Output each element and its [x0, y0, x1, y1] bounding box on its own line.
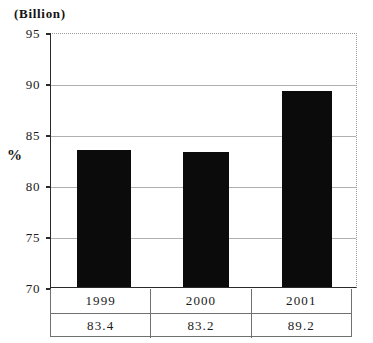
chart-figure: (Billion) % 959085807570 199920002001 83… — [0, 0, 373, 343]
table-row-values: 83.483.289.2 — [51, 313, 351, 338]
table-cell-value: 83.2 — [150, 314, 250, 338]
unit-caption: (Billion) — [14, 6, 66, 22]
y-axis-title: % — [7, 147, 23, 164]
y-axis-tick-label: 80 — [6, 180, 40, 193]
y-axis-tick-label: 70 — [6, 282, 40, 295]
bar-2000 — [183, 152, 229, 287]
bar-2001 — [282, 91, 332, 287]
plot-area — [50, 33, 357, 288]
table-cell-value: 89.2 — [251, 314, 351, 338]
y-axis-tick-label: 75 — [6, 231, 40, 244]
table-cell-year: 1999 — [51, 289, 150, 313]
gridline — [51, 85, 356, 86]
table-row-years: 199920002001 — [51, 289, 351, 313]
table-cell-year: 2001 — [251, 289, 351, 313]
y-axis-tick-label: 85 — [6, 129, 40, 142]
y-axis-tick-label: 90 — [6, 78, 40, 91]
y-axis-tick-label: 95 — [6, 27, 40, 40]
bar-1999 — [77, 150, 131, 287]
table-cell-year: 2000 — [150, 289, 250, 313]
y-axis-tick — [46, 84, 51, 85]
data-table: 199920002001 83.483.289.2 — [50, 289, 352, 337]
y-axis-tick — [46, 237, 51, 238]
y-axis-tick — [46, 135, 51, 136]
y-axis-tick — [46, 186, 51, 187]
table-cell-value: 83.4 — [51, 314, 150, 338]
y-axis-tick — [46, 33, 51, 34]
